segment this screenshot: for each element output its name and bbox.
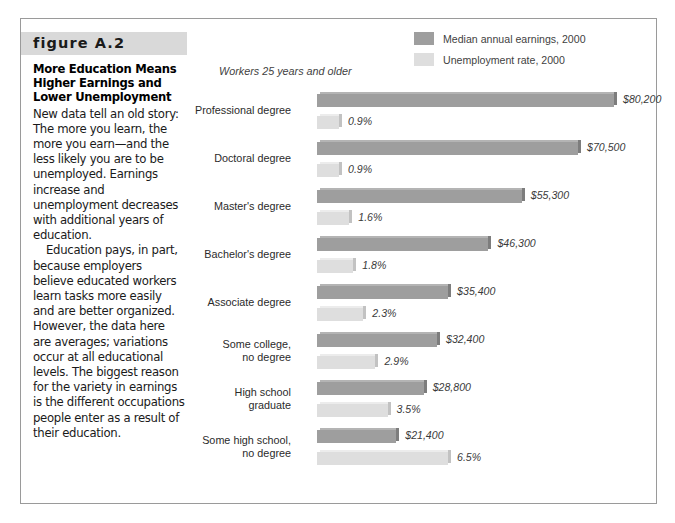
bar-group: Associate degree$35,4002.3% xyxy=(193,279,656,327)
earnings-bar xyxy=(317,284,448,299)
unemployment-bar-row: 0.9% xyxy=(317,112,409,129)
bar-face xyxy=(317,142,578,155)
earnings-value-label: $70,500 xyxy=(587,140,625,154)
legend-item-unemployment: Unemployment rate, 2000 xyxy=(414,51,639,68)
bar-right-bevel xyxy=(522,188,525,201)
bar-face xyxy=(317,334,437,347)
bar-face xyxy=(317,164,339,177)
bar-right-bevel xyxy=(578,140,581,153)
chart-area: Median annual earnings, 2000 Unemploymen… xyxy=(193,19,656,503)
unemployment-value-label: 1.8% xyxy=(362,258,386,272)
bar-face xyxy=(317,308,363,321)
unemployment-bar-row: 2.9% xyxy=(317,352,445,369)
bar-face xyxy=(317,356,375,369)
caption-paragraph-1: New data tell an old story: The more you… xyxy=(33,107,185,244)
bar-group: Professional degree$80,2000.9% xyxy=(193,87,656,135)
bar-right-bevel xyxy=(614,92,617,105)
unemployment-bar-row: 1.8% xyxy=(317,256,423,273)
earnings-value-label: $35,400 xyxy=(457,284,495,298)
bar-right-bevel xyxy=(375,354,378,367)
bar-right-bevel xyxy=(448,284,451,297)
earnings-bar xyxy=(317,332,437,347)
bar-face xyxy=(317,286,448,299)
bar-face xyxy=(317,430,396,443)
bar-right-bevel xyxy=(349,210,352,223)
bar-group: Some high school, no degree$21,4006.5% xyxy=(193,423,656,471)
bar-face xyxy=(317,238,488,251)
earnings-bar xyxy=(317,380,424,395)
earnings-bar-row: $46,300 xyxy=(317,234,558,251)
earnings-value-label: $21,400 xyxy=(405,428,443,442)
unemployment-bar-row: 1.6% xyxy=(317,208,419,225)
bar-group: Bachelor's degree$46,3001.8% xyxy=(193,231,656,279)
earnings-value-label: $55,300 xyxy=(531,188,569,202)
figure-title: More Education Means Higher Earnings and… xyxy=(33,62,185,105)
earnings-bar-row: $35,400 xyxy=(317,282,518,299)
bar-face xyxy=(317,382,424,395)
bar-group: Master's degree$55,3001.6% xyxy=(193,183,656,231)
earnings-bar xyxy=(317,188,522,203)
unemployment-bar-row: 0.9% xyxy=(317,160,409,177)
unemployment-bar xyxy=(317,354,375,369)
bar-right-bevel xyxy=(396,428,399,441)
earnings-bar xyxy=(317,236,488,251)
unemployment-value-label: 3.5% xyxy=(397,402,421,416)
unemployment-bar xyxy=(317,258,353,273)
bar-right-bevel xyxy=(437,332,440,345)
unemployment-value-label: 0.9% xyxy=(348,162,372,176)
earnings-value-label: $80,200 xyxy=(623,92,661,106)
category-label: Associate degree xyxy=(91,296,291,309)
legend-item-earnings: Median annual earnings, 2000 xyxy=(414,30,639,47)
bar-right-bevel xyxy=(488,236,491,249)
unemployment-bar-row: 6.5% xyxy=(317,448,518,465)
category-label: High school graduate xyxy=(91,386,291,413)
earnings-bar-row: $28,800 xyxy=(317,378,494,395)
chart-plot: Professional degree$80,2000.9%Doctoral d… xyxy=(193,87,656,503)
category-label: Professional degree xyxy=(91,104,291,117)
chart-subtitle: Workers 25 years and older xyxy=(219,65,352,77)
earnings-value-label: $32,400 xyxy=(446,332,484,346)
unemployment-value-label: 0.9% xyxy=(348,114,372,128)
bar-group: High school graduate$28,8003.5% xyxy=(193,375,656,423)
bar-group: Some college, no degree$32,4002.9% xyxy=(193,327,656,375)
chart-legend: Median annual earnings, 2000 Unemploymen… xyxy=(414,30,639,72)
earnings-bar xyxy=(317,140,578,155)
legend-label-earnings: Median annual earnings, 2000 xyxy=(443,33,586,45)
bar-right-bevel xyxy=(339,162,342,175)
bar-face xyxy=(317,452,448,465)
category-label: Some college, no degree xyxy=(91,338,291,365)
category-label: Some high school, no degree xyxy=(91,434,291,461)
unemployment-bar-row: 3.5% xyxy=(317,400,458,417)
bar-right-bevel xyxy=(424,380,427,393)
earnings-bar xyxy=(317,428,396,443)
bar-face xyxy=(317,404,388,417)
bar-right-bevel xyxy=(339,114,342,127)
category-label: Master's degree xyxy=(91,200,291,213)
earnings-bar-row: $32,400 xyxy=(317,330,507,347)
legend-swatch-unemployment xyxy=(414,53,434,66)
bar-face xyxy=(317,116,339,129)
unemployment-value-label: 2.3% xyxy=(372,306,396,320)
unemployment-bar xyxy=(317,402,388,417)
earnings-bar-row: $80,200 xyxy=(317,90,675,107)
bar-face xyxy=(317,212,349,225)
bar-right-bevel xyxy=(363,306,366,319)
earnings-bar-row: $70,500 xyxy=(317,138,648,155)
bar-right-bevel xyxy=(448,450,451,463)
bar-face xyxy=(317,260,353,273)
bar-right-bevel xyxy=(353,258,356,271)
unemployment-value-label: 1.6% xyxy=(358,210,382,224)
unemployment-value-label: 6.5% xyxy=(457,450,481,464)
category-label: Bachelor's degree xyxy=(91,248,291,261)
bar-face xyxy=(317,190,522,203)
bar-group: Doctoral degree$70,5000.9% xyxy=(193,135,656,183)
figure-number-label: figure A.2 xyxy=(33,34,125,53)
unemployment-value-label: 2.9% xyxy=(384,354,408,368)
legend-swatch-earnings xyxy=(414,32,434,45)
unemployment-bar xyxy=(317,450,448,465)
unemployment-bar xyxy=(317,114,339,129)
bar-right-bevel xyxy=(388,402,391,415)
earnings-value-label: $28,800 xyxy=(433,380,471,394)
unemployment-bar xyxy=(317,306,363,321)
bar-face xyxy=(317,94,614,107)
